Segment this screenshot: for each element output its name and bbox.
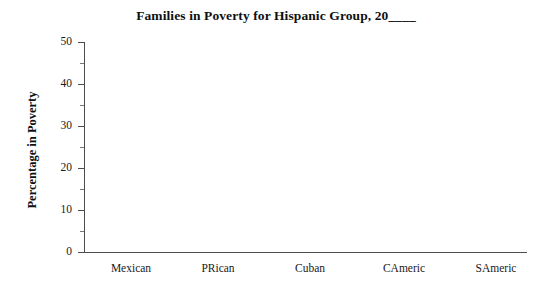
y-tick-label-50: 50 [28, 35, 72, 47]
y-tick-label-40: 40 [28, 77, 72, 89]
x-tick-label-sameric: SAmeric [441, 262, 551, 274]
bars-layer [84, 42, 527, 252]
y-tick-label-30: 30 [28, 119, 72, 131]
y-tick-label-0: 0 [28, 245, 72, 257]
y-tick-label-20: 20 [28, 161, 72, 173]
chart-title: Families in Poverty for Hispanic Group, … [0, 8, 552, 24]
y-axis-label: Percentage in Poverty [25, 91, 40, 208]
y-tick-label-10: 10 [28, 203, 72, 215]
x-axis-line [84, 252, 527, 253]
chart-figure: Families in Poverty for Hispanic Group, … [0, 0, 552, 291]
y-tick-major-0 [78, 252, 84, 253]
plot-area [84, 42, 527, 252]
